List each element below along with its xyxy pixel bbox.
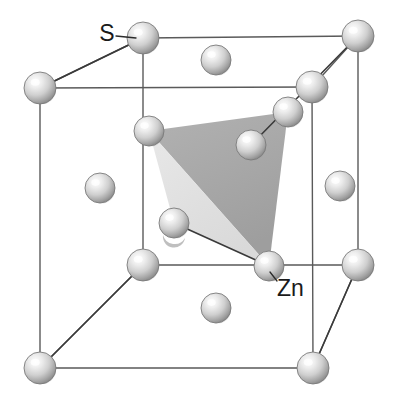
bond-fbl-bbl [40, 265, 143, 368]
atom-s-corner-fbr[interactable] [297, 352, 329, 384]
atom-s-face-back[interactable] [236, 130, 266, 160]
atom-s-corner-ftl[interactable] [24, 72, 56, 104]
cube-edge-front_top_right-to-front_bottom_right [312, 87, 313, 368]
bond-fbr-bbr [313, 265, 358, 368]
cube-edge-back_top_left-to-back_top_right [143, 36, 358, 38]
atom-s-corner-fbl[interactable] [24, 352, 56, 384]
zinc-blende-unit-cell-diagram: S Zn [0, 0, 399, 407]
atom-zn-tetra-a[interactable] [134, 116, 164, 146]
atom-s-corner-bbr[interactable] [342, 249, 374, 281]
atom-s-corner-bbl[interactable] [127, 249, 159, 281]
atom-s-face-right[interactable] [325, 171, 355, 201]
atom-s-corner-ftr[interactable] [296, 71, 328, 103]
atom-s-face-bottom[interactable] [201, 293, 231, 323]
atom-zn-tetra-b[interactable] [273, 97, 303, 127]
label-zinc: Zn [277, 275, 304, 301]
atom-s-corner-btr[interactable] [342, 20, 374, 52]
atom-s-face-top[interactable] [201, 45, 231, 75]
label-sulfur: S [99, 20, 114, 46]
crystal-structure-figure: S Zn [0, 0, 399, 407]
atom-zn-tetra-d[interactable] [159, 208, 189, 238]
atom-s-face-left[interactable] [85, 173, 115, 203]
bond-s-btl-ftl [40, 38, 143, 88]
cube-edge-front_top_left-to-front_top_right [40, 87, 312, 88]
